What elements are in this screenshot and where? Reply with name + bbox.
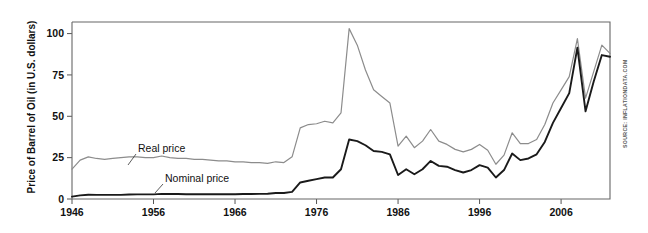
nominal-price-label: Nominal price <box>165 172 229 184</box>
x-tick-label: 1996 <box>468 206 492 218</box>
y-axis-title-text: Price of Barrel of Oil (in U.S. dollars) <box>26 21 37 194</box>
x-tick-label: 1946 <box>60 206 84 218</box>
source-note: SOURCE: INFLATIONDATA.COM <box>622 59 628 148</box>
x-tick-label: 2006 <box>549 206 573 218</box>
x-axis-ticks: 1946195619661976198619962006 <box>60 199 573 218</box>
real-price-leader-line <box>128 154 136 165</box>
y-tick-label: 0 <box>58 193 64 205</box>
x-tick-label: 1966 <box>223 206 247 218</box>
series-lines <box>72 29 610 197</box>
y-tick-label: 50 <box>52 110 64 122</box>
nominal-price-annotation: Nominal price <box>155 172 229 193</box>
series-line-nominal-price <box>72 48 610 197</box>
y-tick-label: 100 <box>46 27 64 39</box>
y-axis-ticks: 0255075100 <box>46 27 72 204</box>
y-axis-title: Price of Barrel of Oil (in U.S. dollars) <box>26 21 37 194</box>
real-price-annotation: Real price <box>128 142 185 165</box>
y-tick-label: 25 <box>52 151 64 163</box>
chart-svg: Price of Barrel of Oil (in U.S. dollars)… <box>0 0 648 233</box>
x-tick-label: 1986 <box>386 206 410 218</box>
x-tick-label: 1976 <box>305 206 329 218</box>
nominal-price-leader-line <box>155 184 163 193</box>
x-tick-label: 1956 <box>142 206 166 218</box>
real-price-label: Real price <box>138 142 185 154</box>
y-tick-label: 75 <box>52 69 64 81</box>
oil-price-chart-figure: Price of Barrel of Oil (in U.S. dollars)… <box>0 0 648 233</box>
